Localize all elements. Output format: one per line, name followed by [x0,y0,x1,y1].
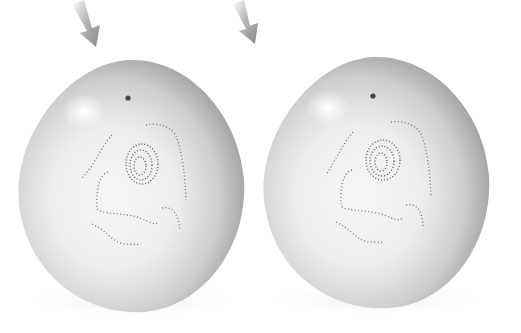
centrosome-dot [125,95,130,100]
arrow-down-right-icon [72,0,100,47]
cell-right [264,57,490,316]
cell-left [18,60,244,318]
centrosome-dot [370,93,375,98]
arrow-down-right-icon [233,0,258,44]
cells-illustration [0,0,521,333]
